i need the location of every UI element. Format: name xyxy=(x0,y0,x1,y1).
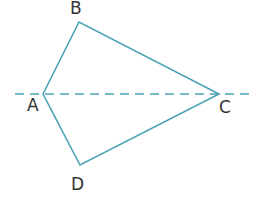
vertex-label-c: C xyxy=(219,97,231,117)
vertex-label-b: B xyxy=(70,0,82,18)
kite-shape xyxy=(43,22,219,165)
vertex-label-d: D xyxy=(71,174,84,194)
vertex-label-a: A xyxy=(27,95,39,115)
diagram-svg: A B C D xyxy=(0,0,258,199)
kite-diagram: A B C D xyxy=(0,0,258,199)
